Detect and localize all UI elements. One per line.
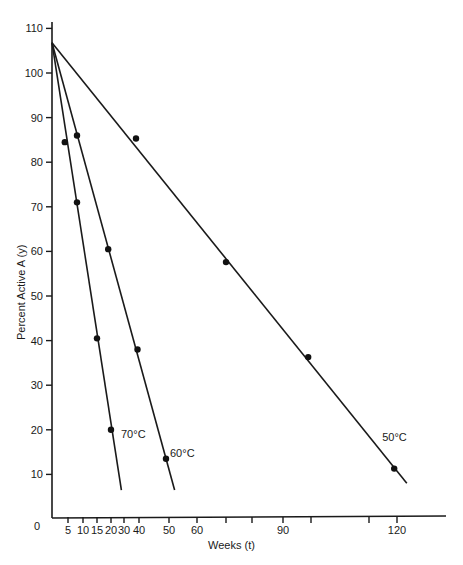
x-tick-label: 60 [191,524,203,536]
y-tick-label: 90 [31,112,43,124]
data-point [134,346,140,352]
data-point [74,132,80,138]
y-tick-label: 70 [31,201,43,213]
y-tick-label: 20 [31,424,43,436]
y-tick-label: 50 [31,290,43,302]
x-ticks: 51015203040506090120 [65,517,406,536]
data-point [74,199,80,205]
data-point [105,246,111,252]
fit-line [52,43,407,484]
data-point [163,456,169,462]
series-50c: 50°C [52,43,407,484]
y-tick-label: 110 [25,22,43,34]
x-tick-label: 5 [65,524,71,536]
data-point [108,427,114,433]
y-tick-label: 40 [31,335,43,347]
series-60c: 60°C [52,43,195,490]
data-point [133,135,139,141]
fit-line [52,43,175,490]
x-tick-label: 40 [133,524,145,536]
x-tick-label: 120 [388,524,406,536]
chart: 102030405060708090100110 510152030405060… [0,0,463,565]
data-point [223,259,229,265]
data-point [305,354,311,360]
data-point [94,335,100,341]
x-tick-label: 10 [77,524,89,536]
x-tick-label: 50 [163,524,175,536]
y-tick-label: 80 [31,156,43,168]
x-tick-label: 30 [118,524,130,536]
fit-line [52,43,121,490]
x-tick-label: 90 [277,524,289,536]
data-point [62,139,68,145]
series-group: 70°C60°C50°C [52,43,407,490]
y-tick-label: 100 [25,67,43,79]
series-70c: 70°C [52,43,146,490]
y-axis-title: Percent Active A (y) [15,245,27,340]
series-label: 70°C [121,428,146,440]
y-tick-label: 10 [31,468,43,480]
x-tick-label: 20 [105,524,117,536]
series-label: 60°C [170,447,195,459]
x-tick-label: 15 [91,524,103,536]
data-point [391,465,397,471]
x-axis-title: Weeks (t) [208,539,255,551]
x-origin-label: 0 [34,520,40,532]
y-tick-label: 30 [31,379,43,391]
axes [52,22,446,518]
y-tick-label: 60 [31,245,43,257]
series-label: 50°C [382,431,407,443]
y-ticks: 102030405060708090100110 [25,22,52,480]
